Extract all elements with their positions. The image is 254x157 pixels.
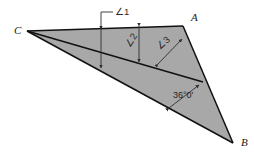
measured-angle-label: 36°0' [173, 90, 194, 100]
triangle-diagram-svg: ∠1 ∠2 ∠3 36°0' A B C [0, 0, 254, 157]
geometry-figure: ∠1 ∠2 ∠3 36°0' A B C [0, 0, 254, 157]
angle-1-label: ∠1 [115, 6, 129, 17]
vertex-label-a: A [190, 11, 198, 23]
vertex-label-c: C [14, 24, 22, 36]
angle-1-leader-line [101, 12, 113, 28]
vertex-label-b: B [241, 136, 248, 148]
